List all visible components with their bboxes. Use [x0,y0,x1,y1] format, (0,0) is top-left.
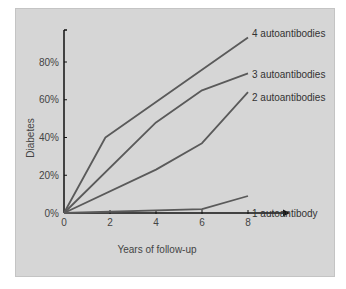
figure-caption [15,281,335,289]
series-label: 1 autoantibody [252,208,318,219]
x-tick-label: 4 [153,217,159,228]
series-line [64,196,248,213]
y-tick-label: 80% [39,57,59,68]
series-line [64,73,248,213]
x-tick-label: 8 [245,217,251,228]
series-label: 3 autoantibodies [252,69,325,80]
plot-area: 0%20%40%60%80%02468Years of follow-upDia… [25,28,325,255]
series-label: 2 autoantibodies [252,92,325,103]
x-tick-label: 2 [107,217,113,228]
series-line [64,92,248,213]
y-tick-label: 0% [45,208,60,219]
y-tick-label: 20% [39,170,59,181]
series-label: 4 autoantibodies [252,28,325,39]
y-axis-title: Diabetes [25,118,36,157]
line-chart: 0%20%40%60%80%02468Years of follow-upDia… [0,0,346,289]
x-tick-label: 0 [61,217,67,228]
y-tick-label: 40% [39,132,59,143]
x-tick-label: 6 [199,217,205,228]
x-axis-title: Years of follow-up [117,244,197,255]
y-tick-label: 60% [39,94,59,105]
